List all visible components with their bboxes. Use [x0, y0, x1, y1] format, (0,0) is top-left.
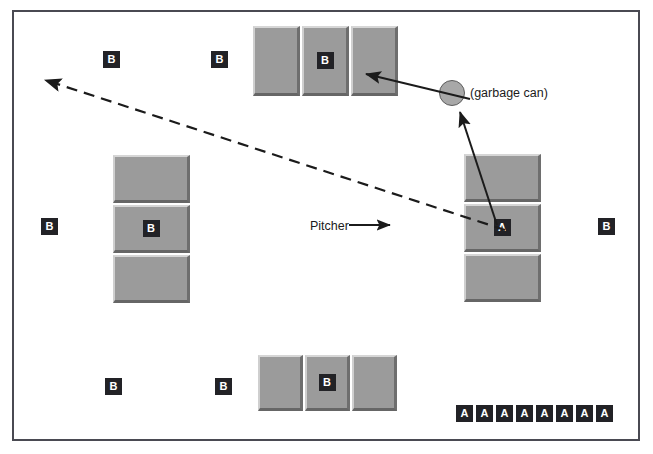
seat-right-1[interactable] [464, 154, 541, 202]
marker-a-row-5: A [536, 405, 553, 422]
table-right[interactable]: A [464, 154, 541, 302]
pitcher-label: Pitcher [310, 219, 349, 233]
marker-b-5: B [105, 378, 122, 395]
seat-bottom-3[interactable] [352, 355, 397, 411]
table-bottom[interactable]: B [258, 355, 398, 411]
table-left[interactable]: B [113, 155, 190, 303]
seat-bottom-1[interactable] [258, 355, 303, 411]
marker-a-row-1: A [456, 405, 473, 422]
marker-a-row-8: A [596, 405, 613, 422]
garbage-can-label: (garbage can) [470, 86, 548, 100]
marker-b-2: B [211, 51, 228, 68]
seat-left-2[interactable]: B [113, 205, 190, 253]
table-top[interactable]: B [253, 26, 400, 96]
marker-b-6: B [215, 378, 232, 395]
seat-top-2-label-wrap: B [304, 28, 346, 93]
marker-a-row-7: A [576, 405, 593, 422]
marker-a-row-2: A [476, 405, 493, 422]
seat-right-2[interactable]: A [464, 204, 541, 252]
marker-a-row-3: A [496, 405, 513, 422]
marker-a-row-4: A [516, 405, 533, 422]
seat-bottom-2[interactable]: B [305, 355, 350, 411]
seat-top-3[interactable] [351, 26, 398, 96]
seat-left-1[interactable] [113, 155, 190, 203]
marker-a-row-6: A [556, 405, 573, 422]
garbage-can-icon [439, 80, 465, 106]
marker-a-table-right: A [494, 219, 511, 236]
marker-b-4: B [598, 218, 615, 235]
marker-a-row: A A A A A A A A [456, 405, 613, 422]
seat-left-3[interactable] [113, 255, 190, 303]
diagram-canvas: B B A B B [0, 0, 653, 454]
marker-b-table-top: B [317, 52, 334, 69]
seat-top-2[interactable]: B [302, 26, 349, 96]
seat-left-2-label-wrap: B [115, 207, 187, 250]
seat-top-1[interactable] [253, 26, 300, 96]
seat-right-2-label-wrap: A [466, 206, 538, 249]
seat-right-3[interactable] [464, 254, 541, 302]
marker-b-table-left: B [143, 220, 160, 237]
marker-b-1: B [103, 51, 120, 68]
seat-bottom-2-label-wrap: B [307, 357, 347, 408]
marker-b-table-bottom: B [319, 374, 336, 391]
marker-b-3: B [41, 218, 58, 235]
